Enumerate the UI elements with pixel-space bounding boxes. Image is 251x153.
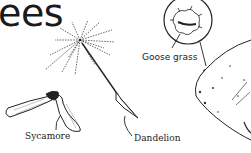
goose-grass-label: Goose grass bbox=[142, 52, 197, 62]
arm-sleeve-icon bbox=[195, 40, 251, 140]
goose-grass-icon bbox=[164, 0, 212, 77]
dandelion-seed-icon bbox=[45, 20, 138, 136]
sycamore-label: Sycamore bbox=[25, 131, 70, 141]
sycamore-seed-icon bbox=[6, 91, 80, 131]
dandelion-label: Dandelion bbox=[134, 133, 180, 143]
